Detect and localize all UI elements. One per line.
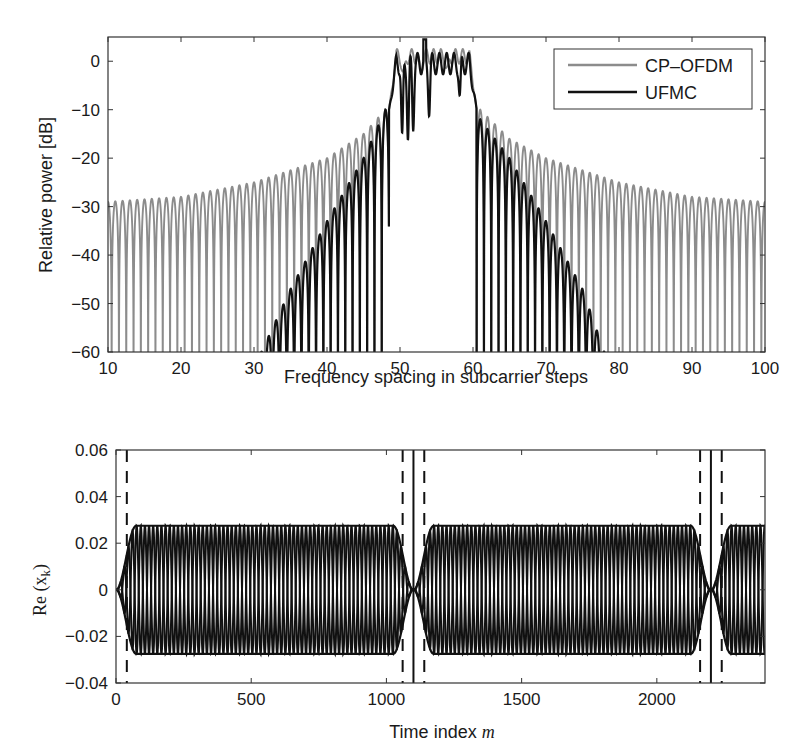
time-y-tick-label: 0.04 — [75, 488, 108, 507]
spectrum-y-tick-label: −30 — [71, 198, 100, 217]
spectrum-y-tick-label: −50 — [71, 295, 100, 314]
spectrum-y-tick-label: −60 — [71, 343, 100, 362]
spectrum-plot: 1020304050607080901000−10−20−30−40−50−60… — [36, 37, 779, 387]
time-y-tick-label: −0.04 — [65, 674, 108, 693]
spectrum-y-tick-label: −20 — [71, 149, 100, 168]
spectrum-x-tick-label: 20 — [172, 359, 191, 378]
time-y-label-text: Re (x — [30, 577, 51, 617]
legend-label-cp-ofdm: CP–OFDM — [645, 56, 733, 76]
time-x-label-var: m — [482, 722, 495, 742]
time-signal-x-axis-label: Time index m — [389, 722, 494, 742]
spectrum-x-tick-label: 10 — [99, 359, 118, 378]
time-x-label-text: Time index — [389, 722, 476, 742]
spectrum-y-tick-label: −40 — [71, 246, 100, 265]
time-y-tick-label: 0.06 — [75, 441, 108, 460]
time-x-tick-label: 2000 — [638, 690, 676, 709]
time-y-label-close: ) — [30, 564, 51, 570]
spectrum-y-tick-label: −10 — [71, 101, 100, 120]
time-x-tick-label: 0 — [111, 690, 120, 709]
time-x-tick-label: 500 — [237, 690, 265, 709]
spectrum-y-axis-label: Relative power [dB] — [36, 117, 56, 273]
spectrum-x-tick-label: 100 — [751, 359, 779, 378]
time-x-tick-label: 1000 — [368, 690, 406, 709]
time-signal-curves — [116, 450, 765, 683]
time-y-tick-label: 0 — [99, 581, 108, 600]
legend-label-ufmc: UFMC — [645, 83, 697, 103]
time-x-tick-label: 1500 — [503, 690, 541, 709]
spectrum-y-tick-label: 0 — [91, 52, 100, 71]
spectrum-x-tick-label: 80 — [610, 359, 629, 378]
figure: 1020304050607080901000−10−20−30−40−50−60… — [0, 0, 800, 755]
time-signal-y-axis-label: Re (xk) — [30, 564, 53, 616]
time-y-tick-label: −0.02 — [65, 627, 108, 646]
legend: CP–OFDM UFMC — [554, 49, 752, 109]
spectrum-x-tick-label: 90 — [683, 359, 702, 378]
time-y-tick-label: 0.02 — [75, 534, 108, 553]
spectrum-x-axis-label: Frequency spacing in subcarrier steps — [284, 367, 588, 387]
time-signal-plot: 05001000150020000.060.040.020−0.02−0.04 … — [30, 441, 765, 742]
spectrum-x-tick-label: 30 — [245, 359, 264, 378]
